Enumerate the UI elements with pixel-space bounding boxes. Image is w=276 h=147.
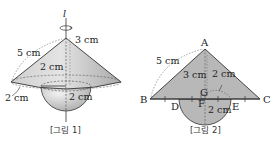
figure-1: l 5 cm 3 cm 2 cm 2 cm 2 cm [그림 1] bbox=[5, 8, 121, 135]
axis-label: l bbox=[63, 8, 66, 19]
point-b: B bbox=[140, 94, 147, 105]
diagram-svg: l 5 cm 3 cm 2 cm 2 cm 2 cm [그림 1] bbox=[0, 0, 276, 147]
fig2-label-radius-down: 2 cm bbox=[208, 104, 231, 115]
point-f: F bbox=[198, 98, 205, 109]
fig2-label-ab: 5 cm bbox=[156, 55, 179, 66]
fig1-label-hemi-top: 2 cm bbox=[40, 61, 63, 72]
fig2-label-radius-arc: 2 cm bbox=[212, 68, 235, 79]
point-c: C bbox=[263, 94, 271, 105]
point-g: G bbox=[200, 87, 208, 98]
fig1-caption: [그림 1] bbox=[50, 125, 81, 135]
figure-2: A B C D E F G 5 cm 3 cm 2 cm 2 cm [그림 2] bbox=[140, 37, 271, 135]
fig1-label-height: 3 cm bbox=[75, 34, 98, 45]
point-e: E bbox=[232, 101, 239, 112]
point-a: A bbox=[200, 37, 209, 48]
fig1-label-rim: 2 cm bbox=[5, 92, 28, 103]
fig2-caption: [그림 2] bbox=[190, 125, 221, 135]
point-d: D bbox=[171, 101, 179, 112]
diagram-stage: l 5 cm 3 cm 2 cm 2 cm 2 cm [그림 1] bbox=[0, 0, 276, 147]
fig2-label-af: 3 cm bbox=[183, 69, 206, 80]
fig1-label-slant: 5 cm bbox=[17, 47, 40, 58]
fig1-label-hemi-radius: 2 cm bbox=[69, 91, 92, 102]
